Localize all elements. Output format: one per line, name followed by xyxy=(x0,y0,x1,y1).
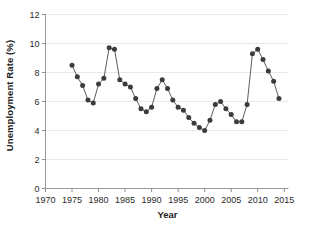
data-point-1995 xyxy=(176,105,181,110)
data-point-2002 xyxy=(213,102,218,107)
y-tick-labels-group: 024681012 xyxy=(29,10,39,194)
data-point-2007 xyxy=(239,119,244,124)
data-point-2013 xyxy=(271,79,276,84)
unemployment-rate-chart: Unemployment Rate (%) Year 024681012 197… xyxy=(0,0,311,232)
data-point-2001 xyxy=(207,118,212,123)
data-point-1980 xyxy=(96,82,101,87)
data-point-2009 xyxy=(250,51,255,56)
data-point-1990 xyxy=(149,105,154,110)
x-tick-labels-group: 1970197519801985199019952000200520102015 xyxy=(35,195,294,205)
x-tick-label-1975: 1975 xyxy=(62,195,82,205)
data-point-1983 xyxy=(112,47,117,52)
data-point-1988 xyxy=(139,106,144,111)
y-tick-label-6: 6 xyxy=(34,97,39,107)
data-point-1985 xyxy=(123,82,128,87)
y-tick-label-12: 12 xyxy=(29,10,39,20)
x-tick-label-2010: 2010 xyxy=(248,195,268,205)
data-point-1977 xyxy=(80,83,85,88)
data-point-1984 xyxy=(117,77,122,82)
x-tick-label-2015: 2015 xyxy=(274,195,294,205)
data-point-1997 xyxy=(186,115,191,120)
chart-canvas: 024681012 197019751980198519901995200020… xyxy=(0,0,311,232)
data-point-1979 xyxy=(91,100,96,105)
data-point-2003 xyxy=(218,99,223,104)
data-point-2008 xyxy=(245,102,250,107)
data-point-2004 xyxy=(223,106,228,111)
x-tick-label-1970: 1970 xyxy=(35,195,55,205)
y-tick-label-10: 10 xyxy=(29,39,39,49)
data-point-2012 xyxy=(266,69,271,74)
x-tick-label-1995: 1995 xyxy=(168,195,188,205)
data-point-1987 xyxy=(133,96,138,101)
x-tick-label-2005: 2005 xyxy=(221,195,241,205)
data-point-1982 xyxy=(107,45,112,50)
data-point-2006 xyxy=(234,119,239,124)
data-point-1975 xyxy=(70,63,75,68)
data-point-2014 xyxy=(276,96,281,101)
data-point-1998 xyxy=(192,121,197,126)
y-tick-label-0: 0 xyxy=(34,184,39,194)
data-point-1978 xyxy=(85,98,90,103)
data-point-1993 xyxy=(165,86,170,91)
data-point-2010 xyxy=(255,47,260,52)
x-tick-label-1990: 1990 xyxy=(142,195,162,205)
data-points-group xyxy=(70,45,282,133)
y-tick-label-4: 4 xyxy=(34,126,39,136)
plot-area: 024681012 197019751980198519901995200020… xyxy=(0,0,311,232)
data-point-2011 xyxy=(261,57,266,62)
data-point-1999 xyxy=(197,125,202,130)
data-point-2000 xyxy=(202,128,207,133)
data-point-1992 xyxy=(160,77,165,82)
x-tick-label-1985: 1985 xyxy=(115,195,135,205)
data-point-2005 xyxy=(229,112,234,117)
x-tick-marks-group xyxy=(46,189,285,193)
data-line-group xyxy=(72,48,279,131)
x-tick-label-1980: 1980 xyxy=(89,195,109,205)
data-point-1981 xyxy=(101,76,106,81)
data-point-1989 xyxy=(144,109,149,114)
data-point-1976 xyxy=(75,74,80,79)
data-point-1994 xyxy=(170,98,175,103)
data-point-1986 xyxy=(128,85,133,90)
y-tick-marks-group xyxy=(42,15,46,189)
data-point-1996 xyxy=(181,108,186,113)
x-tick-label-2000: 2000 xyxy=(195,195,215,205)
y-tick-label-2: 2 xyxy=(34,155,39,165)
data-point-1991 xyxy=(154,86,159,91)
unemployment-series-line xyxy=(72,48,279,131)
y-tick-label-8: 8 xyxy=(34,68,39,78)
